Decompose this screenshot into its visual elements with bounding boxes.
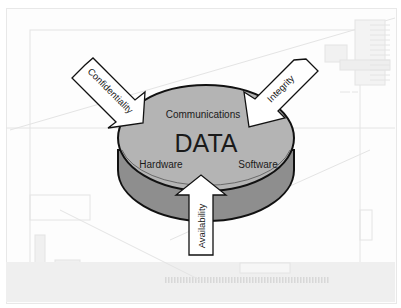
component-label-communications: Communications [166,109,240,120]
component-label-software: Software [238,159,278,170]
arrow-confidentiality: Confidentiality [72,58,145,128]
component-label-hardware: Hardware [139,159,183,170]
arrow-label-availability: Availability [196,203,207,248]
center-label-data: DATA [175,129,238,157]
cia-triad-diagram: Communications DATA Hardware Software Co… [0,0,401,308]
